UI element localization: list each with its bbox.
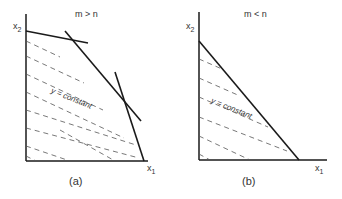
panel-a-caption: (a) <box>69 175 82 187</box>
panel-a-condition: m > n <box>75 9 98 19</box>
panel-b-x-axis-label: x1 <box>315 163 323 175</box>
panel-b-y-axis-label: x2 <box>186 21 194 33</box>
axis-sub: 1 <box>320 168 324 175</box>
panel-a-constraint-2 <box>65 31 141 121</box>
panel-a-constraint-1 <box>26 31 88 43</box>
panel-a-x-axis-label: x1 <box>147 163 155 175</box>
panel-b-graphics <box>199 12 327 160</box>
panel-a-y-axis-label: x2 <box>13 21 21 33</box>
panel-b-condition: m < n <box>244 9 267 19</box>
axis-sub: 1 <box>152 168 156 175</box>
axis-sub: 2 <box>191 26 195 33</box>
axis-sub: 2 <box>18 26 22 33</box>
panel-a-graphics <box>26 14 148 161</box>
panel-a-constraint-3 <box>115 72 144 161</box>
diagram-canvas <box>0 0 342 199</box>
panel-b-caption: (b) <box>242 175 255 187</box>
